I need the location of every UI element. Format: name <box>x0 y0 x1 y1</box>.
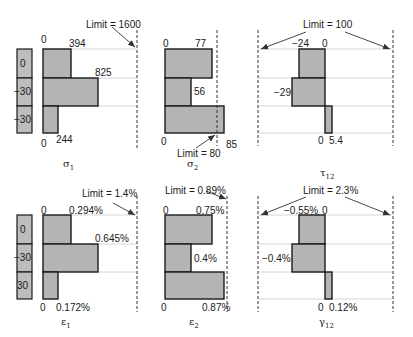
gamma12-zero-bottom: 0 <box>318 302 324 313</box>
gamma12-value-ply3: 0.12% <box>329 302 357 313</box>
ply-angle-label: 0 <box>20 224 26 235</box>
tau12-axis-label: τ12 <box>320 167 334 183</box>
tau12-limit-arrow-right <box>345 32 390 49</box>
eps2-value-ply3: 0.87% <box>202 302 230 313</box>
sigma2-limit-label: Limit = 80 <box>177 148 221 159</box>
sigma1-bar-ply2 <box>43 78 98 106</box>
gamma12-limit-arrow-right <box>345 197 390 215</box>
sigma2-limit-arrow <box>196 135 215 148</box>
ply-angle-label: 0 <box>20 58 26 69</box>
eps2-axis-label: ε2 <box>189 316 199 332</box>
eps1-zero-top: 0 <box>41 205 47 216</box>
sigma2-zero-bottom: 0 <box>161 136 167 147</box>
sigma1-zero-top: 0 <box>41 34 47 45</box>
sigma1-value-ply1: 394 <box>69 38 86 49</box>
sigma1-value-ply3: 244 <box>56 134 73 145</box>
tau12-value-ply1: −24 <box>292 38 309 49</box>
sigma2-value-ply1: 77 <box>195 38 206 49</box>
eps1-zero-bottom: 0 <box>40 302 46 313</box>
tau12-value-ply3: 5.4 <box>329 135 343 146</box>
gamma12-zero-top: 0 <box>322 205 328 216</box>
gamma12-value-ply2: −0.4% <box>262 253 291 264</box>
tau12-value-ply2: −29 <box>274 87 291 98</box>
sigma2-value-ply3: 85 <box>226 139 237 150</box>
diagram-graphics <box>0 0 413 337</box>
gamma12-value-ply1: −0.55% <box>284 205 318 216</box>
sigma2-bar-ply1 <box>165 49 212 78</box>
eps1-limit-arrow <box>113 203 135 215</box>
gamma12-bar-ply3 <box>325 272 332 299</box>
sigma2-bar-ply3 <box>165 106 224 133</box>
tau12-bar-ply1 <box>299 49 325 78</box>
eps2-bar-ply1 <box>165 215 212 244</box>
tau12-bar-ply3 <box>325 106 332 133</box>
tau12-zero-top: 0 <box>322 38 328 49</box>
eps2-zero-top: 0 <box>163 205 169 216</box>
sigma2-bar-ply2 <box>165 78 191 106</box>
sigma1-bar-ply3 <box>43 106 58 133</box>
eps1-bar-ply2 <box>43 244 98 272</box>
eps2-value-ply1: 0.75% <box>196 205 224 216</box>
tau12-zero-bottom: 0 <box>318 135 324 146</box>
eps1-limit-label: Limit = 1.4% <box>82 188 137 199</box>
eps2-limit-label: Limit = 0.89% <box>165 185 226 196</box>
eps1-value-ply1: 0.294% <box>69 205 103 216</box>
tau12-bar-ply2 <box>292 78 325 106</box>
sigma1-value-ply2: 825 <box>95 67 112 78</box>
gamma12-bar-ply1 <box>299 215 325 244</box>
ply-angle-label: 30 <box>17 280 28 291</box>
eps2-bar-ply3 <box>165 272 224 299</box>
eps1-bar-ply1 <box>43 215 71 244</box>
tau12-limit-label: Limit = 100 <box>303 19 352 30</box>
sigma1-limit-arrow <box>112 27 135 47</box>
sigma2-zero-top: 0 <box>163 38 169 49</box>
sigma2-value-ply2: 56 <box>194 86 205 97</box>
sigma2-axis-label: σ2 <box>187 158 198 174</box>
gamma12-axis-label: γ12 <box>319 316 334 332</box>
eps1-axis-label: ε1 <box>61 316 71 332</box>
gamma12-bar-ply2 <box>292 244 325 272</box>
eps2-value-ply2: 0.4% <box>194 253 217 264</box>
sigma1-bar-ply1 <box>43 49 71 78</box>
ply-angle-label: −30 <box>14 252 31 263</box>
ply-angle-label: −30 <box>14 86 31 97</box>
ply-angle-label: −30 <box>14 114 31 125</box>
eps2-bar-ply2 <box>165 244 191 272</box>
eps1-value-ply2: 0.645% <box>95 233 129 244</box>
eps1-bar-ply3 <box>43 272 58 299</box>
sigma1-limit-label: Limit = 1600 <box>86 19 141 30</box>
eps1-value-ply3: 0.172% <box>56 302 90 313</box>
sigma1-panel <box>43 27 137 148</box>
sigma1-zero-bottom: 0 <box>41 138 47 149</box>
sigma1-axis-label: σ1 <box>63 158 74 174</box>
gamma12-limit-label: Limit = 2.3% <box>303 185 358 196</box>
eps2-zero-bottom: 0 <box>161 302 167 313</box>
